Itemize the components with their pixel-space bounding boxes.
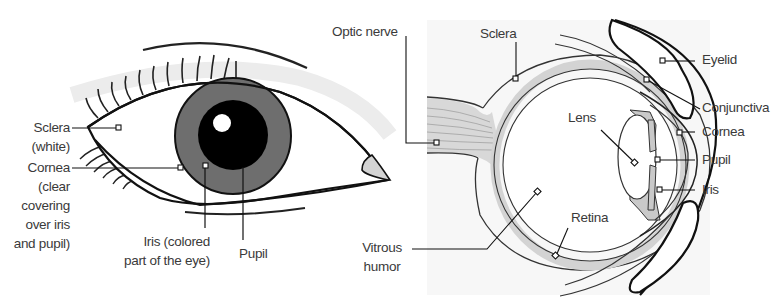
label-section-iris: Iris (702, 180, 719, 199)
label-vitrous-line1: Vitrous (356, 238, 408, 257)
eye-anatomy-diagram: Sclera (white) Cornea (clear covering ov… (0, 0, 784, 305)
label-conjunctiva: Conjunctiva (702, 98, 769, 117)
cross-section-eye (406, 20, 716, 296)
label-front-iris-line2: part of the eye) (110, 251, 210, 270)
label-vitrous-line2: humor (356, 257, 408, 276)
label-eyelid: Eyelid (702, 50, 737, 69)
label-section-pupil: Pupil (702, 150, 731, 169)
label-front-cornea-line1: Cornea (4, 158, 70, 177)
label-lens: Lens (568, 108, 596, 127)
label-front-cornea-line5: and pupil) (4, 234, 70, 253)
pupil-highlight (213, 114, 231, 132)
label-front-iris: Iris (colored part of the eye) (110, 232, 210, 270)
front-view-eye (72, 43, 390, 240)
label-section-sclera: Sclera (480, 24, 516, 43)
label-front-sclera: Sclera (white) (14, 118, 70, 156)
iris-lower (648, 165, 656, 210)
label-front-cornea-line4: over iris (4, 215, 70, 234)
label-retina: Retina (571, 208, 608, 227)
label-section-cornea: Cornea (702, 122, 744, 141)
label-front-iris-line1: Iris (colored (110, 232, 210, 251)
label-front-cornea-line3: covering (4, 196, 70, 215)
label-front-cornea-line2: (clear (4, 177, 70, 196)
label-vitrous-humor: Vitrous humor (356, 238, 408, 276)
label-optic-nerve: Optic nerve (332, 22, 398, 41)
label-front-pupil: Pupil (239, 244, 268, 263)
iris-upper (648, 120, 656, 152)
label-front-cornea: Cornea (clear covering over iris and pup… (4, 158, 70, 253)
label-front-sclera-line1: Sclera (14, 118, 70, 137)
pupil-shape (198, 100, 268, 170)
lower-lid-crease (185, 208, 305, 214)
label-front-sclera-line2: (white) (14, 137, 70, 156)
